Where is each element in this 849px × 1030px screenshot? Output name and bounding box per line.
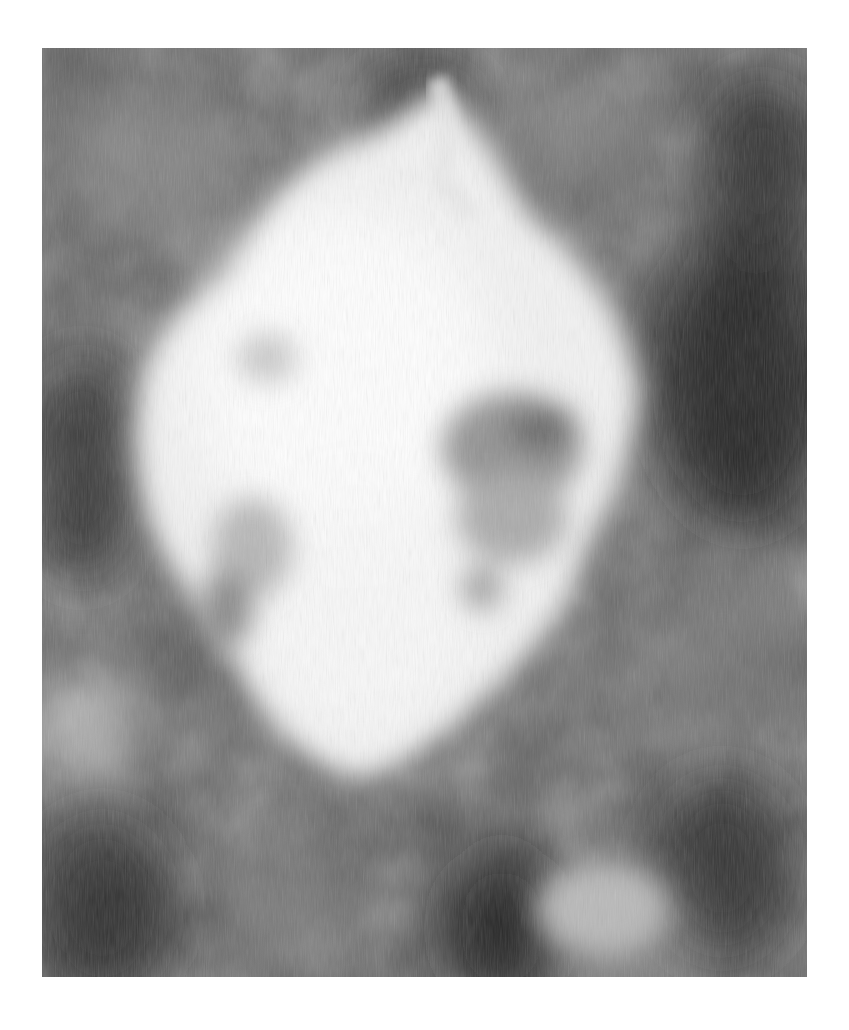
abstract-painting	[42, 48, 807, 977]
painting-canvas	[42, 48, 807, 977]
